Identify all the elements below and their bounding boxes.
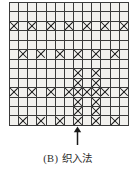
pattern-cell-empty xyxy=(10,97,19,106)
pattern-cell-black xyxy=(110,12,119,21)
pattern-cell-empty xyxy=(37,69,46,78)
pattern-cell-empty xyxy=(19,69,28,78)
pattern-cell-cross xyxy=(119,88,128,97)
pattern-cell-cross xyxy=(19,116,28,125)
pattern-cell-empty xyxy=(46,40,55,49)
pattern-grid-row xyxy=(10,88,129,97)
pattern-cell-empty xyxy=(119,31,128,40)
pattern-cell-empty xyxy=(28,97,37,106)
pattern-cell-empty xyxy=(10,59,19,68)
pattern-cell-cross xyxy=(46,21,55,30)
pattern-cell-empty xyxy=(110,21,119,30)
pattern-cell-empty xyxy=(83,106,92,115)
pattern-cell-empty xyxy=(64,69,73,78)
pattern-cell-cross xyxy=(83,21,92,30)
pattern-cell-empty xyxy=(19,12,28,21)
pattern-cell-empty xyxy=(46,116,55,125)
pattern-grid-row xyxy=(10,69,129,78)
pattern-cell-empty xyxy=(92,3,101,12)
pattern-cell-empty xyxy=(101,106,110,115)
pattern-cell-empty xyxy=(28,12,37,21)
pattern-cell-black xyxy=(55,31,64,40)
pattern-cell-empty xyxy=(101,12,110,21)
pattern-cell-empty xyxy=(28,106,37,115)
pattern-cell-empty xyxy=(19,78,28,87)
pattern-cell-black xyxy=(64,3,73,12)
pattern-cell-empty xyxy=(110,78,119,87)
pattern-cell-empty xyxy=(37,106,46,115)
pattern-cell-black xyxy=(55,69,64,78)
pattern-cell-empty xyxy=(119,106,128,115)
pattern-cell-cross xyxy=(73,116,82,125)
pattern-cell-cross xyxy=(37,116,46,125)
pattern-cell-cross xyxy=(92,88,101,97)
pattern-cell-empty xyxy=(37,3,46,12)
pattern-cell-empty xyxy=(46,69,55,78)
pattern-cell-empty xyxy=(83,69,92,78)
pattern-cell-black xyxy=(119,3,128,12)
pattern-cell-empty xyxy=(110,3,119,12)
pattern-cell-empty xyxy=(37,40,46,49)
pattern-cell-empty xyxy=(28,69,37,78)
pattern-grid-row xyxy=(10,78,129,87)
pattern-cell-empty xyxy=(55,21,64,30)
pattern-cell-empty xyxy=(92,40,101,49)
pattern-cell-cross xyxy=(92,97,101,106)
pattern-cell-cross xyxy=(83,88,92,97)
pattern-cell-empty xyxy=(37,21,46,30)
pattern-cell-empty xyxy=(46,12,55,21)
pattern-cell-empty xyxy=(119,97,128,106)
pattern-cell-empty xyxy=(46,78,55,87)
pattern-cell-empty xyxy=(19,88,28,97)
pattern-cell-cross xyxy=(55,116,64,125)
pattern-cell-empty xyxy=(46,3,55,12)
pattern-cell-black xyxy=(119,59,128,68)
pattern-cell-cross xyxy=(92,69,101,78)
pattern-cell-empty xyxy=(64,116,73,125)
pattern-grid-row xyxy=(10,3,129,12)
pattern-cell-empty xyxy=(101,50,110,59)
pattern-cell-empty xyxy=(37,12,46,21)
pattern-cell-empty xyxy=(19,21,28,30)
pattern-cell-black xyxy=(101,97,110,106)
pattern-cell-empty xyxy=(19,106,28,115)
pattern-cell-empty xyxy=(55,97,64,106)
pattern-cell-empty xyxy=(119,78,128,87)
pattern-cell-empty xyxy=(46,106,55,115)
pattern-cell-black xyxy=(110,31,119,40)
pattern-cell-empty xyxy=(110,88,119,97)
pattern-cell-cross xyxy=(92,116,101,125)
pattern-cell-empty xyxy=(10,40,19,49)
pattern-cell-empty xyxy=(101,116,110,125)
pattern-cell-empty xyxy=(19,97,28,106)
pattern-cell-cross xyxy=(46,88,55,97)
pattern-cell-empty xyxy=(46,31,55,40)
pattern-cell-empty xyxy=(55,88,64,97)
pattern-cell-empty xyxy=(28,59,37,68)
pattern-cell-empty xyxy=(92,31,101,40)
pattern-cell-empty xyxy=(83,50,92,59)
pattern-cell-empty xyxy=(19,3,28,12)
pattern-cell-empty xyxy=(83,31,92,40)
pattern-grid-row xyxy=(10,31,129,40)
pattern-cell-black xyxy=(64,40,73,49)
pattern-cell-cross xyxy=(92,78,101,87)
pattern-grid-row xyxy=(10,97,129,106)
pattern-cell-empty xyxy=(101,59,110,68)
pattern-grid-container xyxy=(9,2,128,125)
pattern-cell-empty xyxy=(28,40,37,49)
pattern-cell-empty xyxy=(64,106,73,115)
pattern-grid-row xyxy=(10,59,129,68)
pattern-cell-empty xyxy=(55,59,64,68)
pattern-cell-empty xyxy=(83,12,92,21)
caption-text: 织入法 xyxy=(62,152,93,164)
pattern-cell-empty xyxy=(10,116,19,125)
pattern-cell-black xyxy=(119,40,128,49)
pattern-cell-empty xyxy=(37,78,46,87)
pattern-grid-row xyxy=(10,40,129,49)
pattern-cell-empty xyxy=(119,116,128,125)
pattern-cell-black xyxy=(64,59,73,68)
pattern-cell-empty xyxy=(92,12,101,21)
figure-caption: (B) 织入法 xyxy=(0,150,136,165)
pattern-cell-empty xyxy=(73,3,82,12)
